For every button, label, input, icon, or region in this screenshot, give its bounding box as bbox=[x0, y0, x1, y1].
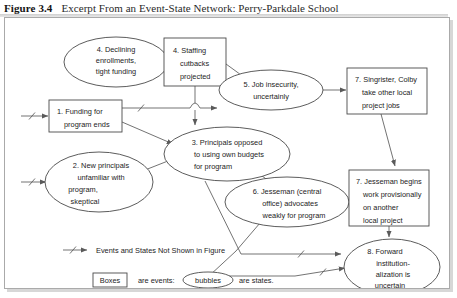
edge-offpage-to-n2 bbox=[21, 179, 46, 186]
legend-line-2-events: are events: bbox=[138, 276, 175, 285]
legend-hatched-arrow-icon bbox=[63, 247, 87, 254]
node-label-line: 1. Funding for bbox=[57, 107, 103, 116]
node-label-line: 8. Forward bbox=[367, 247, 402, 256]
node-8-forward-institutionalization[interactable]: 8. Forward institution- alization is unc… bbox=[344, 239, 440, 288]
node-label-line: project jobs bbox=[362, 101, 400, 110]
node-label-line: on another bbox=[363, 203, 399, 212]
node-label-line: take other local bbox=[362, 88, 412, 97]
node-label-line: office) advocates bbox=[262, 199, 318, 208]
node-1-funding-program-ends[interactable]: 1. Funding for program ends bbox=[49, 100, 122, 132]
edge-n1-to-n3 bbox=[122, 122, 173, 144]
node-label-line: 7. Singrister, Colby bbox=[355, 75, 417, 84]
node-4-staffing-cutbacks[interactable]: 4. Staffing cutbacks projected bbox=[164, 38, 226, 86]
node-5-job-insecurity[interactable]: 5. Job insecurity, uncertainly bbox=[219, 70, 323, 110]
node-label-line: cutbacks bbox=[180, 59, 209, 68]
node-label-line: alization is bbox=[376, 270, 411, 279]
node-label-line: unfamiliar with bbox=[77, 173, 124, 182]
node-6-jesseman-advocates-weakly[interactable]: 6. Jesseman (central office) advocates w… bbox=[225, 177, 349, 227]
node-label-line: to using own budgets bbox=[194, 150, 264, 159]
node-label-line: 3. Principals opposed bbox=[192, 138, 263, 147]
node-label-line: local project bbox=[363, 216, 402, 225]
legend-line-1: Events and States Not Shown in Figure bbox=[96, 246, 225, 255]
figure-number: Figure 3.4 bbox=[4, 2, 52, 14]
node-label-line: work provisionally bbox=[362, 190, 422, 199]
node-label-line: skeptical bbox=[71, 197, 100, 206]
node-label-line: 4. Staffing bbox=[173, 46, 206, 55]
node-label-line: weakly for program bbox=[262, 211, 326, 220]
node-label-line: program, bbox=[68, 185, 98, 194]
edge-offpage-to-n1 bbox=[21, 113, 48, 120]
node-3-principals-opposed[interactable]: 3. Principals opposed to using own budge… bbox=[164, 127, 290, 181]
node-label-line: program ends bbox=[64, 120, 110, 129]
node-label-line: 4. Declining bbox=[97, 45, 136, 54]
legend-line-2-states: are states. bbox=[239, 276, 274, 285]
node-label-line: enrollments, bbox=[96, 56, 136, 65]
figure-title: Excerpt From an Event-State Network: Per… bbox=[61, 2, 338, 14]
node-label-line: projected bbox=[180, 72, 210, 81]
node-label-line: uncertain bbox=[375, 281, 405, 288]
legend-bubble-sample: bubbles bbox=[183, 272, 233, 288]
event-state-network-diagram: 4. Declining enrollments, tight funding … bbox=[5, 18, 449, 288]
legend-box-label: Boxes bbox=[100, 276, 121, 285]
node-label-line: uncertainly bbox=[253, 92, 289, 101]
node-2-new-principals-unfamiliar[interactable]: 2. New principals unfamiliar with progra… bbox=[45, 152, 153, 212]
node-label-line: for program bbox=[194, 162, 232, 171]
node-7-jesseman-begins-work[interactable]: 7. Jesseman begins work provisionally on… bbox=[349, 170, 429, 226]
node-label-line: 6. Jesseman (central bbox=[253, 187, 322, 196]
node-label-line: institution- bbox=[376, 259, 410, 268]
legend-bubble-label: bubbles bbox=[195, 276, 221, 285]
figure-panel: 4. Declining enrollments, tight funding … bbox=[4, 17, 450, 289]
node-4-declining-enrollments[interactable]: 4. Declining enrollments, tight funding bbox=[64, 37, 168, 87]
edge-n7a-to-n7b bbox=[381, 114, 395, 166]
legend-box-sample: Boxes bbox=[93, 273, 127, 287]
legend: Events and States Not Shown in Figure Bo… bbox=[63, 246, 274, 288]
node-7-singrister-colby-other-jobs[interactable]: 7. Singrister, Colby take other local pr… bbox=[347, 68, 427, 114]
figure-screenshot: Figure 3.4 Excerpt From an Event-State N… bbox=[0, 0, 457, 298]
node-label-line: 2. New principals bbox=[73, 161, 130, 170]
node-label-line: tight funding bbox=[96, 67, 136, 76]
figure-canvas: 4. Declining enrollments, tight funding … bbox=[5, 18, 449, 288]
node-label-line: 7. Jesseman begins bbox=[356, 177, 422, 186]
node-label-line: 5. Job insecurity, bbox=[244, 80, 299, 89]
edge-n1-to-n5 bbox=[122, 103, 217, 112]
